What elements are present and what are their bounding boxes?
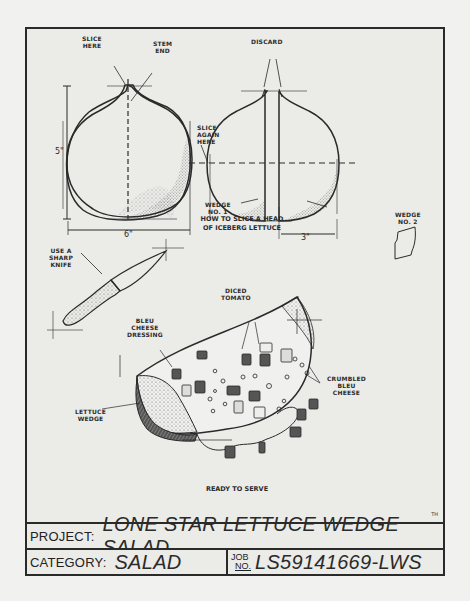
slice-here-label: SLICEHERE (82, 35, 102, 49)
wedge-shape-icon (395, 227, 415, 259)
bleu-cheese-dressing-label: BLEUCHEESEDRESSING (127, 317, 163, 338)
use-sharp-knife-label: USE ASHARPKNIFE (49, 247, 73, 268)
job-no-value: LS59141669-LWS (255, 551, 422, 574)
slice-again-here-label: SLICEAGAINHERE (197, 124, 219, 145)
width-dimension: 6" (124, 230, 133, 239)
drawing-area: 5" 6" 3" (27, 29, 443, 522)
half-width-dimension: 3" (301, 233, 310, 242)
category-cell: CATEGORY: SALAD (27, 550, 228, 574)
project-key: PROJECT: (30, 529, 94, 544)
illustration-canvas: 5" 6" 3" (27, 29, 443, 522)
title-block-project-row: PROJECT: LONE STAR LETTUCE WEDGE SALAD (25, 522, 445, 550)
recipe-drawing-sheet: 5" 6" 3" (25, 27, 445, 576)
crumbled-bleu-cheese-label: CRUMBLEDBLEUCHEESE (327, 375, 366, 396)
job-no-key: JOBNO. (231, 553, 251, 571)
wedge-no-2-label: WEDGENO. 2 (395, 211, 421, 225)
title-block-category-row: CATEGORY: SALAD JOBNO. LS59141669-LWS (25, 548, 445, 576)
diced-tomato-label: DICEDTOMATO (221, 287, 251, 301)
figure-1-caption: HOW TO SLICE A HEADOF ICEBERG LETTUCE (167, 215, 317, 233)
category-key: CATEGORY: (30, 555, 106, 570)
stem-end-label: STEMEND (153, 40, 172, 54)
lettuce-wedge-label: LETTUCEWEDGE (75, 408, 106, 422)
job-number-cell: JOBNO. LS59141669-LWS (228, 550, 422, 574)
category-value: SALAD (114, 551, 181, 574)
wedge-no-1-label: WEDGENO. 1 (205, 201, 231, 215)
discard-label: DISCARD (251, 38, 283, 45)
height-dimension: 5" (55, 147, 64, 156)
ready-to-serve-caption: READY TO SERVE (177, 485, 297, 494)
